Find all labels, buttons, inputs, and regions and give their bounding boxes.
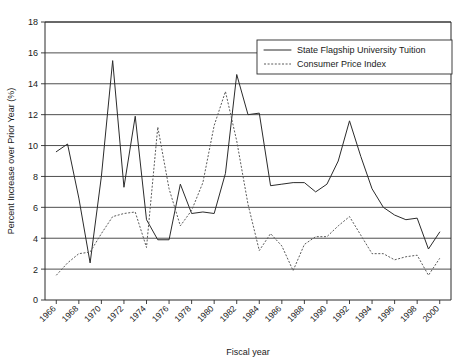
x-tick-label-1988: 1988 [285,303,306,324]
legend-label-0: State Flagship University Tuition [297,45,426,55]
legend-label-1: Consumer Price Index [297,59,387,69]
y-axis-title: Percent Increase over Prior Year (%) [6,88,16,235]
x-tick-label-1980: 1980 [195,303,216,324]
x-tick-label-1966: 1966 [37,303,58,324]
chart-container: 0246810121416181966196819701972197419761… [0,0,460,364]
y-tick-label-2: 2 [33,265,38,275]
x-tick-label-2000: 2000 [421,303,442,324]
series-line-tuition [56,61,439,263]
line-chart: 0246810121416181966196819701972197419761… [0,0,460,364]
y-tick-label-18: 18 [28,17,38,27]
y-tick-label-4: 4 [33,234,38,244]
y-tick-label-16: 16 [28,48,38,58]
y-tick-label-10: 10 [28,141,38,151]
x-tick-label-1994: 1994 [353,303,374,324]
x-tick-label-1990: 1990 [308,303,329,324]
series-line-cpi [56,92,439,276]
x-tick-label-1978: 1978 [172,303,193,324]
x-tick-label-1976: 1976 [150,303,171,324]
x-tick-label-1992: 1992 [330,303,351,324]
y-tick-label-8: 8 [33,172,38,182]
x-tick-label-1996: 1996 [375,303,396,324]
y-tick-label-12: 12 [28,110,38,120]
x-tick-label-1974: 1974 [127,303,148,324]
x-tick-label-1970: 1970 [82,303,103,324]
x-axis-title: Fiscal year [226,347,270,357]
x-tick-label-1984: 1984 [240,303,261,324]
y-tick-label-6: 6 [33,203,38,213]
x-tick-label-1968: 1968 [60,303,81,324]
y-tick-label-0: 0 [33,295,38,305]
x-tick-label-1986: 1986 [263,303,284,324]
x-tick-label-1998: 1998 [398,303,419,324]
x-tick-label-1972: 1972 [105,303,126,324]
y-tick-label-14: 14 [28,79,38,89]
x-tick-label-1982: 1982 [218,303,239,324]
